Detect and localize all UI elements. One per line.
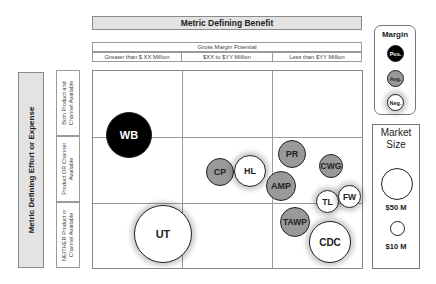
market-size-legend: Market Size $50 M $10 M: [372, 124, 420, 269]
bubble-amp: AMP: [266, 171, 296, 201]
bubble-ut: UT: [134, 205, 192, 263]
legend-pos: Pos.: [387, 45, 404, 62]
gross-margin-title: Gross Margin Potential: [92, 42, 362, 52]
row-label-2: Product OR Channel Available: [56, 136, 80, 202]
column-header-2: $XX to $YY Million: [181, 52, 273, 62]
size-50m-label: $50 M: [373, 203, 419, 212]
column-header-3: Less than $YY Million: [272, 52, 362, 62]
grid-line-v2: [272, 71, 273, 268]
margin-legend-title: Margin: [375, 30, 415, 39]
market-size-title: Market Size: [373, 127, 419, 151]
legend-neg: Neg.: [387, 94, 404, 111]
left-header: Metric Defining Effort or Expense: [18, 72, 44, 268]
size-10m-circle: [390, 221, 405, 236]
bubble-fw: FW: [338, 185, 361, 208]
size-50m-circle: [381, 168, 413, 200]
size-10m-label: $10 M: [373, 242, 419, 251]
column-header-1: Greater than $ XX Million: [92, 52, 182, 62]
bubble-tl: TL: [316, 190, 339, 213]
top-header-title: Metric Defining Benefit: [181, 18, 274, 28]
bubble-cp: CP: [206, 158, 234, 186]
bubble-hl: HL: [234, 155, 266, 187]
legend-avg: Avg.: [387, 70, 404, 87]
bubble-pr: PR: [278, 140, 306, 168]
row-label-3: NEITHER Product or Channel Available: [56, 202, 80, 268]
bubble-cdc: CDC: [309, 221, 351, 263]
top-header: Metric Defining Benefit: [92, 16, 362, 30]
bubble-cwg: CWG: [319, 154, 343, 178]
bubble-wb: WB: [106, 112, 152, 158]
left-header-title: Metric Defining Effort or Expense: [27, 107, 36, 234]
row-label-1: Both Product and Channel Available: [56, 70, 80, 136]
margin-legend: Margin Pos. Avg. Neg.: [374, 25, 416, 115]
bubble-tawp: TAWP: [280, 207, 310, 237]
